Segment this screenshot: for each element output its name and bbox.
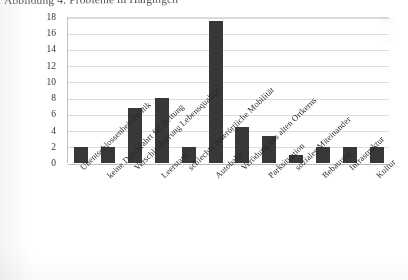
x-axis-labels: Unentschlossenheit Politikkeine Durchfah…	[0, 164, 408, 280]
y-tick-label-18: 18	[47, 12, 57, 22]
y-tick-label-4: 4	[51, 126, 56, 136]
y-tick-label-6: 6	[51, 109, 56, 119]
y-tick-label-14: 14	[47, 44, 57, 54]
y-tick-label-2: 2	[51, 142, 56, 152]
y-tick-label-12: 12	[47, 61, 57, 71]
scan-smudge	[380, 18, 394, 44]
y-tick-label-8: 8	[51, 93, 56, 103]
figure-page: Abbildung 4: Probleme in Haigingen 02468…	[0, 0, 408, 280]
y-tick-label-10: 10	[47, 77, 57, 87]
y-axis: 024681012141618	[0, 17, 64, 163]
figure-caption: Abbildung 4: Probleme in Haigingen	[4, 0, 178, 6]
y-tick-label-16: 16	[47, 28, 57, 38]
